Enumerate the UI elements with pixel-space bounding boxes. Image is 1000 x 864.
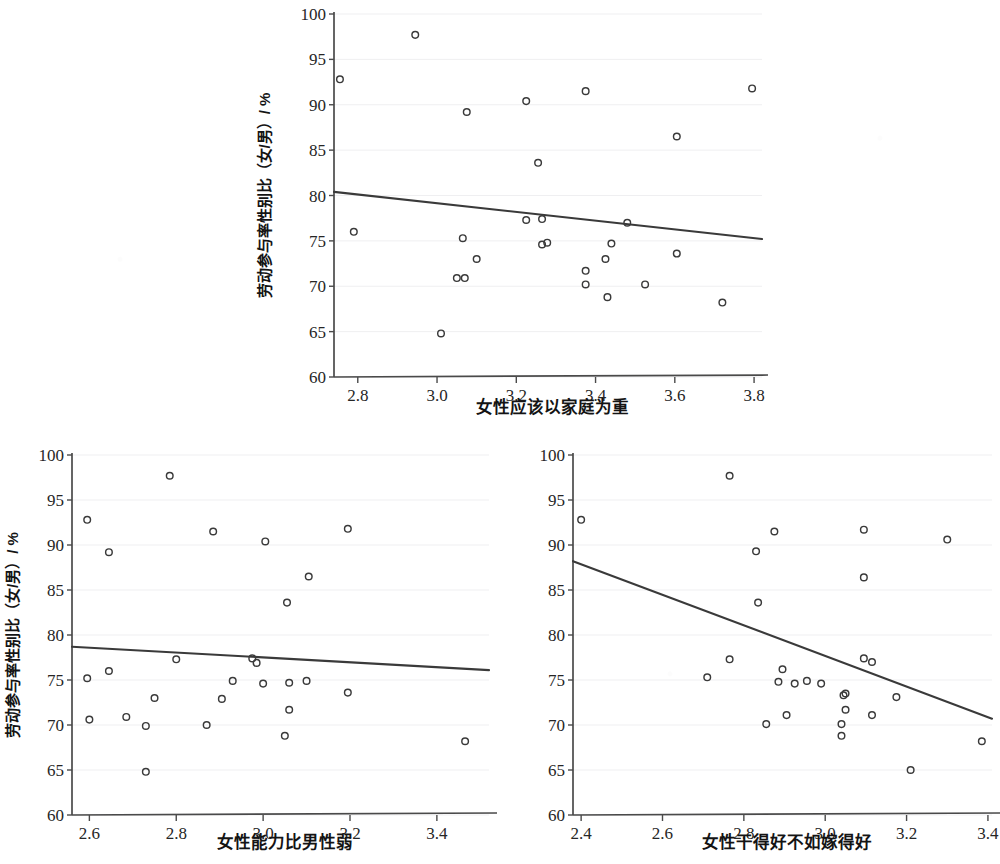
- data-point: [463, 109, 470, 116]
- data-point: [763, 721, 770, 728]
- gridlines: [334, 14, 762, 377]
- data-point: [253, 660, 260, 667]
- data-point: [539, 216, 546, 223]
- y-axis-ticks: 6065707580859095100: [301, 5, 335, 387]
- data-point: [861, 526, 868, 533]
- y-axis-ticks: 6065707580859095100: [39, 446, 73, 825]
- data-point: [804, 678, 811, 685]
- y-tick-label: 100: [301, 5, 327, 24]
- y-tick-label: 80: [47, 626, 64, 645]
- y-tick-label: 90: [548, 536, 565, 555]
- y-tick-label: 75: [309, 232, 326, 251]
- scatter-plot-bottom-left: 60657075808590951002.62.83.03.23.4女性能力比男…: [0, 440, 500, 864]
- gridlines: [72, 455, 489, 815]
- data-point: [775, 679, 782, 686]
- data-point: [473, 256, 480, 263]
- data-point: [582, 268, 589, 275]
- y-tick-label: 70: [548, 716, 565, 735]
- y-tick-label: 90: [309, 96, 326, 115]
- data-point: [345, 526, 352, 533]
- y-tick-label: 90: [47, 536, 64, 555]
- data-point: [229, 678, 236, 685]
- chart-panel-bottom-left: 60657075808590951002.62.83.03.23.4女性能力比男…: [0, 440, 500, 864]
- y-tick-label: 75: [47, 671, 64, 690]
- data-point: [106, 549, 113, 556]
- y-tick-label: 95: [47, 491, 64, 510]
- data-points: [84, 472, 469, 775]
- data-point: [210, 528, 217, 535]
- axes: [334, 12, 768, 377]
- data-point: [286, 706, 293, 713]
- y-tick-label: 75: [548, 671, 565, 690]
- x-axis-title: 女性应该以家庭为重: [476, 397, 629, 416]
- data-point: [842, 706, 849, 713]
- y-tick-label: 85: [309, 141, 326, 160]
- y-tick-label: 65: [309, 323, 326, 342]
- y-tick-label: 80: [548, 626, 565, 645]
- x-tick-label: 3.8: [743, 386, 764, 405]
- data-point: [869, 659, 876, 666]
- data-point: [749, 85, 756, 92]
- data-point: [143, 723, 150, 730]
- x-tick-label: 3.4: [426, 824, 448, 843]
- data-point: [578, 517, 585, 524]
- data-point: [755, 599, 762, 606]
- data-point: [260, 680, 267, 687]
- data-point: [719, 299, 726, 306]
- data-point: [861, 655, 868, 662]
- data-point: [337, 76, 344, 83]
- data-point: [779, 666, 786, 673]
- data-point: [861, 574, 868, 581]
- data-point: [151, 695, 158, 702]
- regression-line: [573, 561, 992, 719]
- y-axis-ticks: 6065707580859095100: [540, 446, 574, 825]
- x-tick-label: 2.6: [652, 824, 673, 843]
- data-point: [535, 160, 542, 167]
- x-tick-label: 2.8: [166, 824, 187, 843]
- data-point: [462, 738, 469, 745]
- data-point: [523, 217, 530, 224]
- x-tick-label: 3.0: [426, 386, 447, 405]
- y-axis-title: 劳动参与率性别比（女/男）/ %: [4, 532, 21, 738]
- data-point: [351, 229, 358, 236]
- data-point: [454, 275, 461, 282]
- data-point: [166, 472, 173, 479]
- data-point: [673, 250, 680, 257]
- regression-line: [334, 192, 762, 239]
- data-point: [673, 133, 680, 140]
- y-tick-label: 80: [309, 187, 326, 206]
- x-tick-label: 2.4: [571, 824, 593, 843]
- data-point: [783, 712, 790, 719]
- scatter-plot-top: 60657075808590951002.83.03.23.43.63.8女性应…: [248, 0, 768, 432]
- data-point: [143, 769, 150, 776]
- data-point: [106, 668, 113, 675]
- y-tick-label: 95: [309, 50, 326, 69]
- y-tick-label: 70: [309, 277, 326, 296]
- data-point: [262, 538, 269, 545]
- axes: [573, 453, 1000, 815]
- data-point: [284, 599, 291, 606]
- chart-panel-top: 60657075808590951002.83.03.23.43.63.8女性应…: [248, 0, 768, 432]
- figure-page: { "figure": { "shared_ylabel": "劳动参与率性别比…: [0, 0, 1000, 864]
- data-point: [84, 517, 91, 524]
- data-point: [123, 714, 130, 721]
- y-tick-label: 60: [47, 806, 64, 825]
- y-tick-label: 65: [548, 761, 565, 780]
- data-point: [602, 256, 609, 263]
- x-tick-label: 3.2: [896, 824, 917, 843]
- y-tick-label: 85: [548, 581, 565, 600]
- x-tick-label: 3.6: [664, 386, 685, 405]
- axes: [72, 453, 497, 815]
- data-point: [86, 716, 93, 723]
- chart-panel-bottom-right: 60657075808590951002.42.62.83.03.23.4女性干…: [500, 440, 1000, 864]
- regression-line: [72, 647, 489, 670]
- y-axis-title: 劳动参与率性别比（女/男）/ %: [256, 93, 273, 299]
- gridlines: [573, 455, 992, 815]
- y-tick-label: 100: [39, 446, 65, 465]
- data-points: [578, 472, 985, 773]
- data-points: [337, 32, 756, 337]
- data-point: [771, 528, 778, 535]
- data-point: [838, 721, 845, 728]
- data-point: [791, 680, 798, 687]
- y-tick-label: 85: [47, 581, 64, 600]
